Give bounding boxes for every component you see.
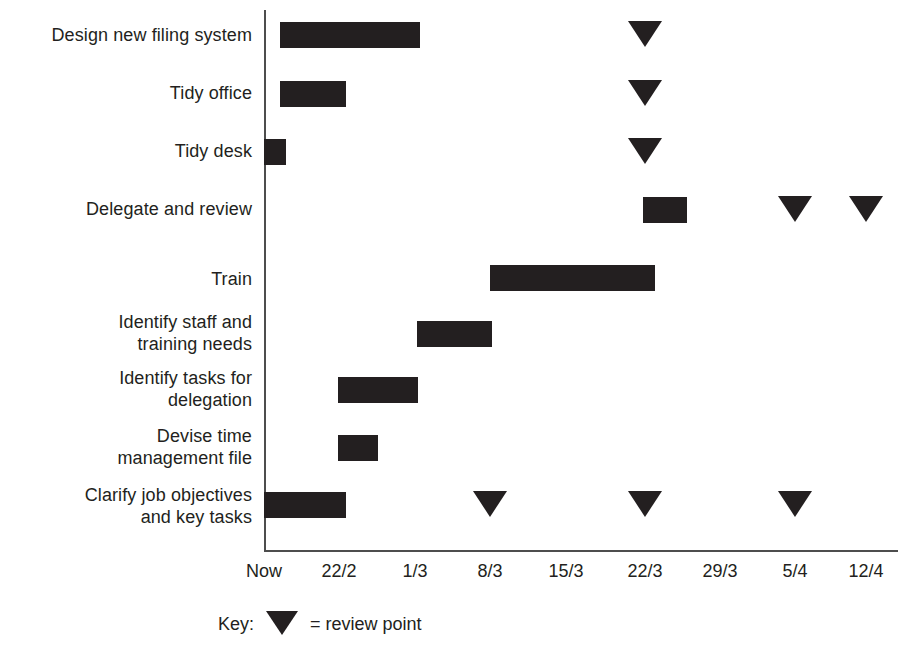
review-point-marker-8-1[interactable] xyxy=(628,491,662,517)
plot-area: Now22/21/38/315/322/329/35/412/4 xyxy=(0,0,910,560)
task-bar-1[interactable] xyxy=(280,81,346,107)
x-axis-line xyxy=(264,550,898,552)
review-point-marker-2-0[interactable] xyxy=(628,138,662,164)
x-tick-label-6: 29/3 xyxy=(680,560,760,582)
y-axis-line xyxy=(264,10,266,552)
task-bar-0[interactable] xyxy=(280,22,420,48)
x-tick-label-0: Now xyxy=(224,560,304,582)
task-bar-3[interactable] xyxy=(643,197,687,223)
x-tick-label-7: 5/4 xyxy=(755,560,835,582)
x-tick-label-1: 22/2 xyxy=(299,560,379,582)
legend-marker-meaning: = review point xyxy=(310,613,422,635)
review-point-marker-icon xyxy=(266,611,298,635)
x-tick-label-4: 15/3 xyxy=(526,560,606,582)
x-tick-label-8: 12/4 xyxy=(826,560,906,582)
task-bar-6[interactable] xyxy=(338,377,418,403)
task-bar-2[interactable] xyxy=(264,139,286,165)
task-bar-4[interactable] xyxy=(490,265,655,291)
x-tick-label-3: 8/3 xyxy=(450,560,530,582)
review-point-marker-8-2[interactable] xyxy=(778,491,812,517)
x-tick-label-5: 22/3 xyxy=(605,560,685,582)
legend: Key: = review point xyxy=(218,612,422,636)
task-bar-8[interactable] xyxy=(264,492,346,518)
review-point-marker-3-1[interactable] xyxy=(849,196,883,222)
review-point-marker-0-0[interactable] xyxy=(628,21,662,47)
task-bar-7[interactable] xyxy=(338,435,378,461)
gantt-chart: Design new filing systemTidy officeTidy … xyxy=(0,0,910,669)
review-point-marker-3-0[interactable] xyxy=(778,196,812,222)
review-point-marker-1-0[interactable] xyxy=(628,80,662,106)
x-tick-label-2: 1/3 xyxy=(375,560,455,582)
legend-key-label: Key: xyxy=(218,613,254,635)
task-bar-5[interactable] xyxy=(417,321,492,347)
review-point-marker-8-0[interactable] xyxy=(473,491,507,517)
